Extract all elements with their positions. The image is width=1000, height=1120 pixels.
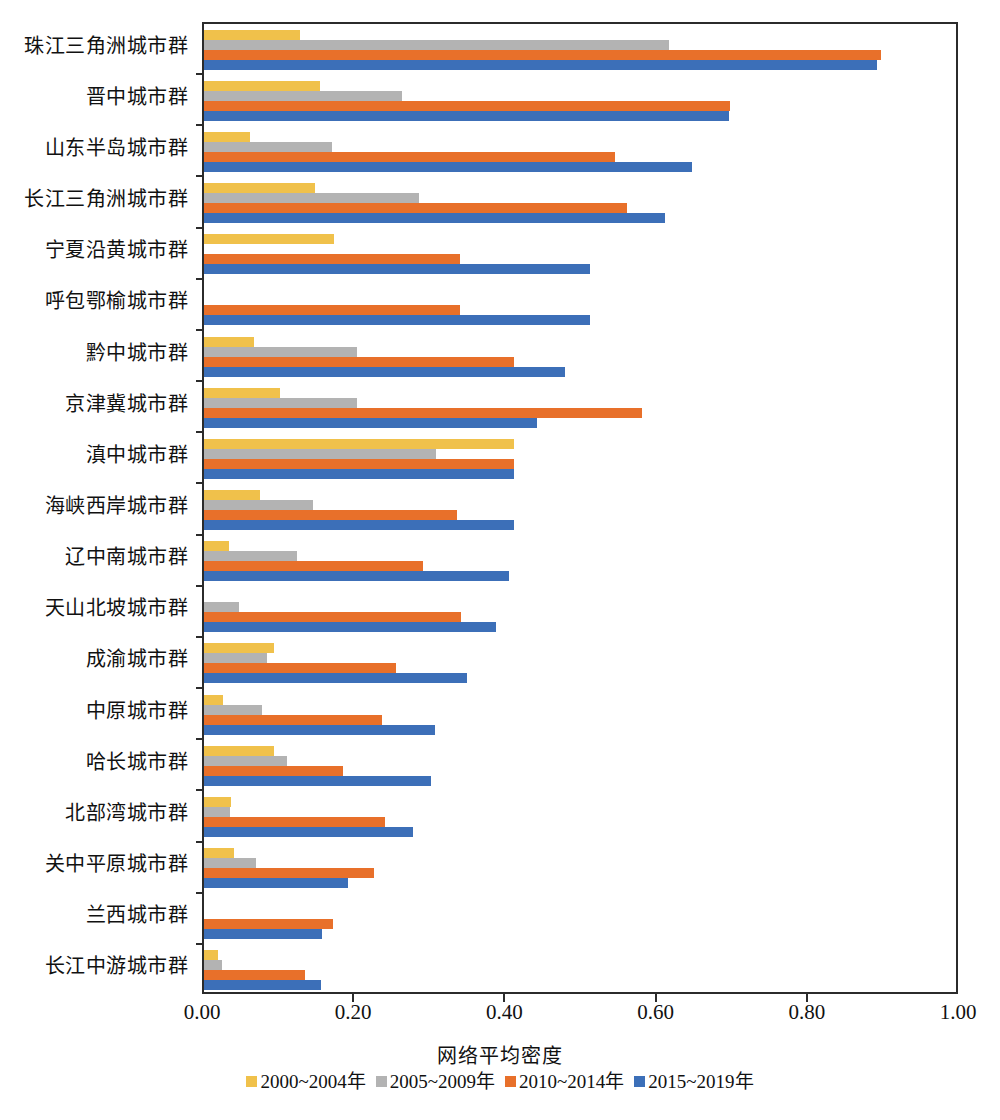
- bar: [204, 653, 267, 663]
- value-tick-label: 0.40: [486, 1002, 523, 1023]
- category-tick: [196, 329, 203, 331]
- bar: [204, 705, 262, 715]
- category-tick: [196, 278, 203, 280]
- category-label: 天山北坡城市群: [45, 598, 189, 618]
- category-tick: [196, 738, 203, 740]
- bar: [204, 50, 881, 60]
- bar: [204, 398, 357, 408]
- bar: [204, 919, 333, 929]
- value-tick-label: 0.60: [637, 1002, 674, 1023]
- bar: [204, 950, 218, 960]
- bar: [204, 980, 321, 990]
- bar: [204, 561, 423, 571]
- bar: [204, 776, 431, 786]
- value-tick-label: 0.80: [788, 1002, 825, 1023]
- category-label: 呼包鄂榆城市群: [45, 291, 189, 311]
- bar: [204, 367, 565, 377]
- bar: [204, 152, 615, 162]
- category-tick: [196, 585, 203, 587]
- bar: [204, 797, 231, 807]
- bar: [204, 827, 413, 837]
- bar: [204, 213, 665, 223]
- category-label: 哈长城市群: [86, 752, 189, 772]
- bar: [204, 602, 239, 612]
- bar: [204, 30, 300, 40]
- category-tick: [196, 227, 203, 229]
- bar: [204, 142, 332, 152]
- category-tick: [196, 175, 203, 177]
- bar: [204, 520, 514, 530]
- bar: [204, 960, 222, 970]
- bar: [204, 500, 313, 510]
- value-tick-label: 0.20: [335, 1002, 372, 1023]
- bar: [204, 541, 229, 551]
- category-label: 长江中游城市群: [45, 956, 189, 976]
- bar: [204, 970, 305, 980]
- category-tick: [196, 73, 203, 75]
- bar: [204, 612, 461, 622]
- legend-label: 2005~2009年: [390, 1072, 495, 1091]
- bar: [204, 459, 514, 469]
- bar: [204, 40, 669, 50]
- bar: [204, 746, 274, 756]
- bar: [204, 510, 457, 520]
- legend-swatch-icon: [505, 1076, 516, 1087]
- category-label: 宁夏沿黄城市群: [45, 240, 189, 260]
- category-label: 晋中城市群: [86, 87, 189, 107]
- bar: [204, 571, 509, 581]
- bar: [204, 203, 627, 213]
- bar: [204, 848, 234, 858]
- legend-label: 2000~2004年: [260, 1072, 365, 1091]
- bar: [204, 469, 514, 479]
- legend-item[interactable]: 2010~2014年: [505, 1072, 624, 1091]
- bar: [204, 183, 315, 193]
- bar: [204, 622, 496, 632]
- category-tick: [196, 789, 203, 791]
- bar: [204, 408, 642, 418]
- category-label: 海峡西岸城市群: [45, 496, 189, 516]
- bar: [204, 81, 320, 91]
- bar: [204, 439, 514, 449]
- bar: [204, 878, 348, 888]
- category-label: 辽中南城市群: [65, 547, 188, 567]
- category-label: 黔中城市群: [86, 343, 189, 363]
- bar: [204, 347, 357, 357]
- category-tick: [196, 841, 203, 843]
- category-tick: [196, 636, 203, 638]
- legend-label: 2010~2014年: [519, 1072, 624, 1091]
- bar: [204, 91, 402, 101]
- bar: [204, 858, 256, 868]
- category-tick: [196, 482, 203, 484]
- value-tick-label: 0.00: [184, 1002, 221, 1023]
- bar: [204, 766, 343, 776]
- category-label: 长江三角洲城市群: [24, 189, 188, 209]
- bar: [204, 193, 419, 203]
- legend-label: 2015~2019年: [648, 1072, 753, 1091]
- bar: [204, 234, 334, 244]
- bar: [204, 60, 877, 70]
- bar: [204, 673, 467, 683]
- bar: [204, 162, 692, 172]
- bar: [204, 305, 460, 315]
- bar: [204, 101, 730, 111]
- bar-chart: 珠江三角洲城市群晋中城市群山东半岛城市群长江三角洲城市群宁夏沿黄城市群呼包鄂榆城…: [0, 0, 1000, 1120]
- bar: [204, 388, 280, 398]
- category-tick: [196, 380, 203, 382]
- legend-swatch-icon: [376, 1076, 387, 1087]
- category-label: 北部湾城市群: [65, 803, 188, 823]
- category-tick: [196, 431, 203, 433]
- bar: [204, 315, 590, 325]
- bar: [204, 807, 230, 817]
- bar: [204, 337, 254, 347]
- bar: [204, 449, 436, 459]
- legend-item[interactable]: 2015~2019年: [634, 1072, 753, 1091]
- legend-item[interactable]: 2005~2009年: [376, 1072, 495, 1091]
- category-tick: [196, 892, 203, 894]
- bar: [204, 490, 260, 500]
- bar: [204, 868, 374, 878]
- bar: [204, 725, 435, 735]
- bar: [204, 418, 537, 428]
- bar: [204, 929, 322, 939]
- legend-item[interactable]: 2000~2004年: [246, 1072, 365, 1091]
- category-tick: [196, 124, 203, 126]
